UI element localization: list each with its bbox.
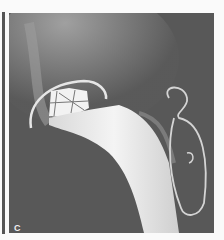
xray-illustration <box>9 13 214 233</box>
panel-label: C <box>14 223 21 233</box>
xray-image <box>9 13 214 233</box>
adjacent-panel-edge <box>2 12 5 234</box>
